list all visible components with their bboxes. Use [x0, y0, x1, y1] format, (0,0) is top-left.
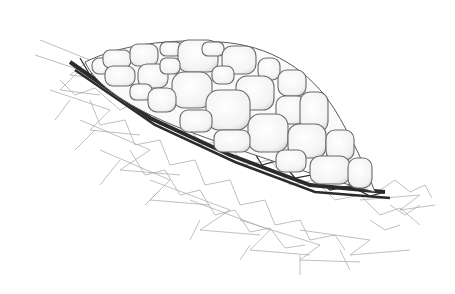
cell-structure-illustration — [0, 0, 455, 294]
illustration-canvas — [0, 0, 455, 294]
